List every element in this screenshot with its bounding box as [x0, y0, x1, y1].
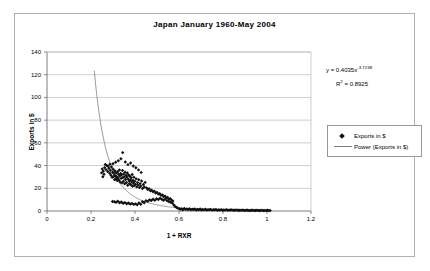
x-tick-label: 1	[254, 216, 280, 222]
x-tick-label: 0	[34, 216, 60, 222]
plot-area: 020406080100120140 00.20.40.60.811.2 Exp…	[47, 52, 311, 211]
legend-item-trendline[interactable]: Power (Exports in $)	[332, 141, 418, 152]
legend-label-series: Exports in $	[354, 133, 386, 139]
plot-svg	[47, 52, 311, 211]
legend-item-series[interactable]: Exports in $	[332, 130, 418, 141]
equation-base: y = 0.4035x	[326, 67, 357, 73]
axis-lines	[47, 52, 311, 211]
gridlines	[47, 52, 311, 188]
line-marker-icon	[332, 141, 354, 152]
x-tick-label: 1.2	[298, 216, 324, 222]
r-squared-value: = 0.8925	[343, 81, 368, 87]
legend-label-trendline: Power (Exports in $)	[354, 144, 408, 150]
y-tick-label: 40	[15, 163, 41, 169]
x-tick-label: 0.4	[122, 216, 148, 222]
chart-legend: Exports in $ Power (Exports in $)	[327, 125, 422, 157]
y-tick-label: 0	[15, 208, 41, 214]
power-trendline	[94, 71, 271, 211]
chart-title: Japan January 1960-May 2004	[14, 20, 415, 29]
trendline-equation-annotation: y = 0.4035x-3.7238 R2 = 0.8925	[326, 62, 372, 90]
x-tick-label: 0.2	[78, 216, 104, 222]
y-tick-label: 120	[15, 72, 41, 78]
diamond-marker-icon	[332, 130, 354, 141]
axis-tickmarks	[44, 52, 311, 214]
equation-exponent: -3.7238	[357, 65, 372, 70]
x-axis-title: 1 + RXR	[47, 232, 311, 239]
y-tick-label: 100	[15, 94, 41, 100]
y-axis-title: Exports in $	[28, 113, 35, 150]
equation-line: y = 0.4035x-3.7238	[326, 62, 372, 76]
y-tick-label: 20	[15, 185, 41, 191]
x-tick-label: 0.6	[166, 216, 192, 222]
scatter-points	[100, 151, 272, 212]
y-tick-label: 140	[15, 49, 41, 55]
r-squared-line: R2 = 0.8925	[326, 76, 372, 90]
chart-root: Japan January 1960-May 2004 020406080100…	[0, 0, 430, 271]
x-tick-label: 0.8	[210, 216, 236, 222]
